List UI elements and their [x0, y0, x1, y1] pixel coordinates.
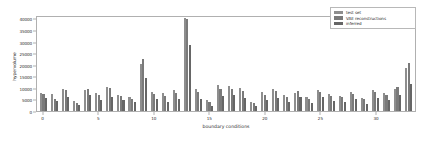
- bar: [222, 96, 224, 111]
- bar: [156, 99, 158, 111]
- x-tick-mark: [42, 112, 43, 115]
- x-tick-label: 5: [97, 116, 100, 121]
- bar: [167, 102, 169, 111]
- bar: [67, 97, 69, 111]
- bar-group: [71, 17, 82, 111]
- bar-group: [60, 17, 71, 111]
- bars-layer: [37, 17, 415, 111]
- legend-label: VAE reconstructions: [346, 16, 386, 21]
- bar-group: [171, 17, 182, 111]
- bar-group: [38, 17, 49, 111]
- legend: test set VAE reconstructions inferred: [330, 7, 416, 29]
- x-tick-label: 0: [41, 116, 44, 121]
- bar: [255, 106, 257, 111]
- x-tick-label: 15: [207, 116, 212, 121]
- legend-label: inferred: [346, 21, 362, 26]
- y-tick-label: 10000: [19, 86, 32, 91]
- x-tick-mark: [209, 112, 210, 115]
- bar: [322, 97, 324, 111]
- bar-group: [82, 17, 93, 111]
- bar: [311, 103, 313, 111]
- bar-group: [326, 17, 337, 111]
- bar: [189, 45, 191, 111]
- bar: [78, 105, 80, 111]
- bar-group: [270, 17, 281, 111]
- plot-area: [36, 16, 416, 112]
- legend-swatch-icon: [334, 11, 343, 14]
- bar-group: [193, 17, 204, 111]
- bar-group: [115, 17, 126, 111]
- bar-group: [370, 17, 381, 111]
- legend-swatch-icon: [334, 16, 343, 19]
- bar-group: [237, 17, 248, 111]
- bar: [244, 98, 246, 111]
- bar-group: [259, 17, 270, 111]
- bar: [277, 98, 279, 111]
- bar: [399, 95, 401, 111]
- bar-group: [182, 17, 193, 111]
- bar-group: [138, 17, 149, 111]
- bar-group: [248, 17, 259, 111]
- x-tick-mark: [264, 112, 265, 115]
- x-tick-label: 30: [373, 116, 378, 121]
- y-tick-label: 35000: [19, 29, 32, 34]
- bar: [366, 104, 368, 111]
- x-tick-mark: [98, 112, 99, 115]
- bar-group: [381, 17, 392, 111]
- bar-group: [359, 17, 370, 111]
- bar-group: [127, 17, 138, 111]
- legend-item-inferred: inferred: [334, 21, 412, 26]
- bar: [122, 100, 124, 111]
- bar-group: [160, 17, 171, 111]
- bar-group: [348, 17, 359, 111]
- bar-group: [292, 17, 303, 111]
- bar: [299, 97, 301, 111]
- bar: [333, 101, 335, 111]
- bar: [89, 95, 91, 111]
- y-tick-label: 15000: [19, 75, 32, 80]
- x-tick-label: 10: [151, 116, 156, 121]
- bar-group: [226, 17, 237, 111]
- x-axis-label: boundary conditions: [36, 124, 416, 129]
- bar: [344, 102, 346, 111]
- y-tick-label: 30000: [19, 40, 32, 45]
- x-tick-mark: [376, 112, 377, 115]
- bar: [266, 100, 268, 111]
- x-axis-ticks: 051015202530: [36, 112, 416, 124]
- y-tick-label: 5000: [22, 98, 32, 103]
- legend-label: test set: [346, 10, 361, 15]
- bar: [388, 100, 390, 111]
- bar: [200, 99, 202, 111]
- bar-chart-figure: hypervolume 0500010000150002000025000300…: [0, 0, 426, 146]
- bar-group: [403, 17, 414, 111]
- bar-group: [392, 17, 403, 111]
- y-axis-ticks: 0500010000150002000025000300003500040000: [0, 16, 36, 112]
- bar-group: [204, 17, 215, 111]
- bar-group: [281, 17, 292, 111]
- bar-group: [337, 17, 348, 111]
- bar-group: [49, 17, 60, 111]
- bar: [111, 97, 113, 111]
- bar-group: [215, 17, 226, 111]
- bar-group: [315, 17, 326, 111]
- y-tick-label: 40000: [19, 17, 32, 22]
- bar-group: [104, 17, 115, 111]
- bar-group: [149, 17, 160, 111]
- bar: [233, 95, 235, 111]
- x-tick-mark: [153, 112, 154, 115]
- bar: [134, 102, 136, 111]
- x-tick-label: 25: [318, 116, 323, 121]
- bar: [45, 98, 47, 111]
- bar: [211, 106, 213, 111]
- bar: [410, 84, 412, 111]
- y-tick-label: 20000: [19, 63, 32, 68]
- legend-swatch-icon: [334, 22, 343, 25]
- x-tick-mark: [320, 112, 321, 115]
- x-tick-label: 20: [262, 116, 267, 121]
- bar: [355, 99, 357, 111]
- bar: [377, 98, 379, 111]
- bar: [288, 102, 290, 111]
- bar: [100, 100, 102, 111]
- bar: [56, 101, 58, 111]
- bar: [145, 78, 147, 111]
